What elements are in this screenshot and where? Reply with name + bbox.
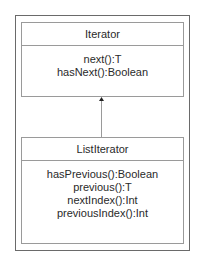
class-name: ListIterator [22,138,183,161]
operation: previous():T [22,181,183,194]
operation: hasPrevious():Boolean [22,168,183,181]
operation: nextIndex():Int [22,194,183,207]
operations-list: hasPrevious():Boolean previous():T nextI… [22,161,183,220]
operation: previousIndex():Int [22,207,183,220]
class-box-listiterator: ListIterator hasPrevious():Boolean previ… [21,137,184,244]
arrowhead-icon [99,97,104,101]
